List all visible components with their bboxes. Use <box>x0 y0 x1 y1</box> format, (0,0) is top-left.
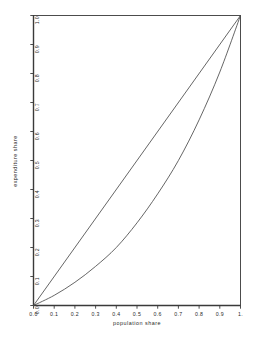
y-tick-label: 0.4 <box>34 190 40 198</box>
y-tick-label: 0.2 <box>34 248 40 256</box>
x-tick-label: 0.7 <box>174 311 182 317</box>
y-tick-label: 0.7 <box>34 103 40 111</box>
y-tick-label: 0.8 <box>34 74 40 82</box>
lorenz-curve-figure: 0.00.10.20.30.40.50.60.70.80.91.0.00.10.… <box>0 0 261 346</box>
x-tick-label: 0.6 <box>154 311 162 317</box>
data-series <box>34 16 241 306</box>
equality-line <box>34 16 241 306</box>
x-tick-label: 1. <box>238 311 243 317</box>
x-tick-label: 0.5 <box>133 311 141 317</box>
y-tick-label: 0.0 <box>34 306 40 314</box>
x-axis-label: population share <box>113 320 161 326</box>
y-tick-label: 0.5 <box>34 161 40 169</box>
x-tick-label: 0.3 <box>91 311 99 317</box>
y-tick-label: 0.1 <box>34 277 40 285</box>
x-tick-label: 0.4 <box>112 311 120 317</box>
x-tick-label: 0.2 <box>71 311 79 317</box>
x-tick-label: 0.9 <box>216 311 224 317</box>
y-axis-label: expenditure share <box>12 135 18 187</box>
y-tick-label: 0.6 <box>34 132 40 140</box>
y-tick-label: 0.9 <box>34 45 40 53</box>
x-tick-label: 0.1 <box>50 311 58 317</box>
x-tick-label: 0.8 <box>195 311 203 317</box>
y-tick-label: 1.0 <box>34 16 40 24</box>
y-tick-label: 0.3 <box>34 219 40 227</box>
